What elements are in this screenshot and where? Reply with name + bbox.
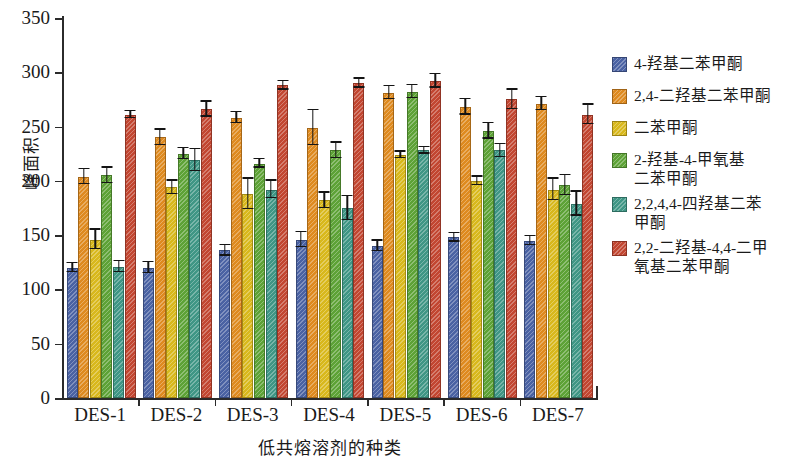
bar[interactable] — [189, 160, 200, 398]
bar-column[interactable] — [125, 18, 136, 398]
legend-item[interactable]: 4-羟基二苯甲酮 — [612, 54, 802, 73]
bar-column[interactable] — [582, 18, 593, 398]
bar-column[interactable] — [266, 18, 277, 398]
bar[interactable] — [548, 190, 559, 398]
bar-column[interactable] — [383, 18, 394, 398]
bar-column[interactable] — [471, 18, 482, 398]
bar[interactable] — [582, 115, 593, 398]
bar[interactable] — [319, 200, 330, 398]
bar-column[interactable] — [189, 18, 200, 398]
bar[interactable] — [559, 185, 570, 398]
bar-column[interactable] — [430, 18, 441, 398]
bar-column[interactable] — [219, 18, 230, 398]
bar-column[interactable] — [536, 18, 547, 398]
bar[interactable] — [125, 115, 136, 398]
error-bar-cap — [430, 73, 441, 74]
error-bar-cap — [559, 194, 570, 195]
bar[interactable] — [90, 240, 101, 399]
error-bar-cap — [266, 179, 277, 180]
bar[interactable] — [101, 175, 112, 398]
error-bar-cap — [448, 240, 459, 241]
bar-column[interactable] — [178, 18, 189, 398]
bar[interactable] — [483, 131, 494, 398]
bar-column[interactable] — [342, 18, 353, 398]
legend-item[interactable]: 2,4-二羟基二苯甲酮 — [612, 86, 802, 105]
bar-column[interactable] — [506, 18, 517, 398]
bar[interactable] — [342, 208, 353, 398]
bar-column[interactable] — [254, 18, 265, 398]
bar[interactable] — [155, 137, 166, 398]
bar-column[interactable] — [483, 18, 494, 398]
bar[interactable] — [353, 83, 364, 398]
legend-item[interactable]: 2-羟基-4-甲氧基 二苯甲酮 — [612, 150, 802, 188]
error-bar-cap — [90, 228, 101, 229]
bar[interactable] — [330, 150, 341, 398]
bar-column[interactable] — [548, 18, 559, 398]
bar[interactable] — [524, 241, 535, 398]
bar[interactable] — [430, 81, 441, 398]
bar-column[interactable] — [307, 18, 318, 398]
bar-column[interactable] — [372, 18, 383, 398]
bar-column[interactable] — [143, 18, 154, 398]
bar[interactable] — [201, 109, 212, 398]
legend-item[interactable]: 二苯甲酮 — [612, 118, 802, 137]
bar-column[interactable] — [319, 18, 330, 398]
bar[interactable] — [254, 164, 265, 399]
bar-column[interactable] — [90, 18, 101, 398]
bar[interactable] — [266, 190, 277, 398]
bar-column[interactable] — [155, 18, 166, 398]
bar[interactable] — [418, 150, 429, 398]
bar-column[interactable] — [101, 18, 112, 398]
bar[interactable] — [395, 155, 406, 398]
bar-column[interactable] — [330, 18, 341, 398]
legend-label: 2,2-二羟基-4,4-二甲 氧基二苯甲酮 — [634, 238, 768, 276]
bar-column[interactable] — [353, 18, 364, 398]
bar-column[interactable] — [166, 18, 177, 398]
bar[interactable] — [219, 250, 230, 398]
bar-column[interactable] — [418, 18, 429, 398]
error-bar-cap — [201, 100, 212, 101]
bar-column[interactable] — [395, 18, 406, 398]
error-bar-cap — [113, 271, 124, 272]
bar-column[interactable] — [448, 18, 459, 398]
error-bar-cap — [78, 168, 89, 169]
bar[interactable] — [143, 268, 154, 398]
bar[interactable] — [372, 246, 383, 398]
bar-column[interactable] — [524, 18, 535, 398]
bar[interactable] — [536, 104, 547, 398]
bar[interactable] — [494, 150, 505, 398]
bar-column[interactable] — [277, 18, 288, 398]
bar[interactable] — [307, 128, 318, 398]
bar-column[interactable] — [559, 18, 570, 398]
bar-column[interactable] — [460, 18, 471, 398]
bar[interactable] — [571, 204, 582, 398]
error-bar-cap — [242, 208, 253, 209]
bar[interactable] — [178, 154, 189, 398]
bar[interactable] — [448, 237, 459, 398]
legend-item[interactable]: 2,2,4,4-四羟基二苯 甲酮 — [612, 194, 802, 232]
bar-column[interactable] — [407, 18, 418, 398]
bar[interactable] — [471, 181, 482, 398]
bar[interactable] — [506, 99, 517, 398]
bar[interactable] — [242, 194, 253, 398]
bar[interactable] — [67, 268, 78, 398]
bar[interactable] — [277, 85, 288, 398]
bar-column[interactable] — [242, 18, 253, 398]
bar-column[interactable] — [67, 18, 78, 398]
bar-column[interactable] — [78, 18, 89, 398]
bar-column[interactable] — [296, 18, 307, 398]
bar-column[interactable] — [571, 18, 582, 398]
bar-column[interactable] — [231, 18, 242, 398]
bar[interactable] — [460, 107, 471, 398]
bar[interactable] — [407, 92, 418, 398]
bar-column[interactable] — [113, 18, 124, 398]
bar-column[interactable] — [201, 18, 212, 398]
bar[interactable] — [383, 93, 394, 398]
bar[interactable] — [78, 177, 89, 398]
bar-column[interactable] — [494, 18, 505, 398]
bar[interactable] — [113, 267, 124, 398]
legend-item[interactable]: 2,2-二羟基-4,4-二甲 氧基二苯甲酮 — [612, 238, 802, 276]
bar[interactable] — [166, 187, 177, 398]
bar[interactable] — [231, 118, 242, 398]
bar[interactable] — [296, 240, 307, 399]
